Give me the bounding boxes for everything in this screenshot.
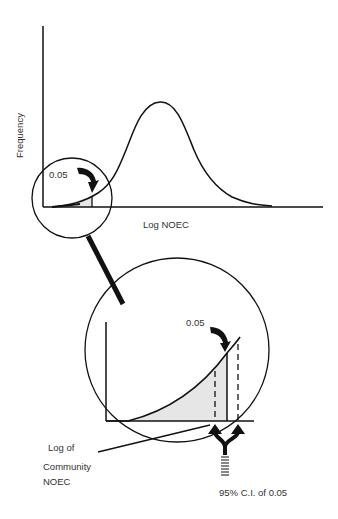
magnifier-connector bbox=[88, 236, 123, 304]
inset-tail-label: 0.05 bbox=[186, 318, 205, 328]
top-tail-label: 0.05 bbox=[49, 170, 68, 180]
ci-label: 95% C.I. of 0.05 bbox=[219, 488, 287, 498]
magnifier-circle-small bbox=[32, 158, 112, 238]
community-noec-pointer bbox=[98, 425, 210, 452]
inset-curved-arrow-icon bbox=[210, 327, 231, 352]
inset-plot bbox=[85, 258, 269, 475]
community-label-line1: Log of bbox=[48, 443, 74, 453]
inset-tail-shade bbox=[132, 353, 227, 421]
distribution-curve bbox=[52, 102, 272, 207]
community-label-line2: Community bbox=[43, 462, 91, 472]
top-y-axis-label: Frequency bbox=[15, 113, 25, 158]
top-curved-arrow-icon bbox=[77, 168, 99, 193]
ci-fork-arrow-icon bbox=[208, 424, 245, 475]
community-label-line3: NOEC bbox=[43, 477, 70, 487]
top-plot bbox=[32, 26, 323, 238]
top-x-axis-label: Log NOEC bbox=[143, 220, 189, 230]
